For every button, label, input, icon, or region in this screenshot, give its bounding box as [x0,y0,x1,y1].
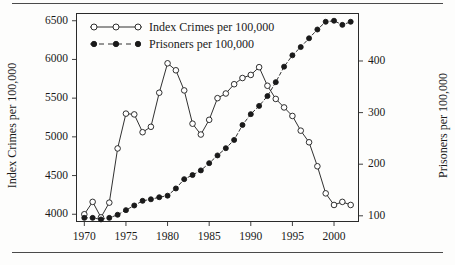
data-point [123,208,128,213]
y-tick-label-left: 4500 [24,170,68,182]
data-point [290,53,295,58]
data-point [240,75,246,81]
data-point [315,27,320,32]
data-point [157,195,162,200]
data-point [148,197,153,202]
data-point [215,95,221,101]
data-point [265,83,271,89]
data-point [182,177,187,182]
data-point [165,193,170,198]
data-point [198,168,203,173]
data-point [107,215,112,220]
data-point [207,161,212,166]
legend-label-index-crimes: Index Crimes per 100,000 [149,21,274,33]
data-point [140,129,146,135]
data-point [90,215,95,220]
data-point [348,19,353,24]
data-point [256,64,262,70]
legend-marker-open-circle [88,20,144,34]
data-point [257,103,262,108]
y-tick-label-left: 5000 [24,131,68,143]
data-point [248,72,254,78]
data-point [173,67,179,73]
data-point [156,90,162,96]
y-tick-label-left: 4000 [24,208,68,220]
y-tick-label-left: 6000 [24,53,68,65]
data-point [307,36,312,41]
data-point [323,191,329,197]
data-point [90,199,96,205]
data-point [181,88,187,94]
data-point [240,122,245,127]
y-tick-label-right: 100 [368,210,402,222]
data-point [115,146,121,152]
data-point [106,200,112,206]
data-point [223,146,228,151]
y-tick-label-left: 6500 [24,15,68,27]
data-point [173,186,178,191]
data-point [331,202,337,208]
data-point [98,217,103,222]
data-point [140,198,145,203]
series-index-crimes [82,61,354,221]
y-tick-label-right: 400 [368,55,402,67]
data-point [332,18,337,23]
legend-label-prisoners: Prisoners per 100,000 [149,38,254,50]
data-point [190,121,196,127]
data-point [340,199,346,205]
data-point [132,203,137,208]
data-point [131,112,137,118]
data-point [298,45,303,50]
data-point [123,111,129,117]
y-tick-label-right: 300 [368,107,402,119]
data-point [298,128,304,134]
data-point [265,94,270,99]
chart-legend: Index Crimes per 100,000 Prisoners per 1… [88,18,274,52]
data-point [198,132,204,138]
data-point [215,153,220,158]
x-tick-label: 2000 [310,231,358,243]
data-point [273,80,278,85]
figure-container: Index Crimes per 100,000 Prisoners per 1… [0,0,455,265]
y-tick-label-left: 5500 [24,92,68,104]
data-point [115,212,120,217]
data-point [306,139,312,145]
data-point [223,91,229,97]
data-point [281,105,287,111]
legend-marker-filled-circle [88,37,144,51]
data-point [165,61,171,67]
data-point [206,117,212,123]
data-point [282,64,287,69]
data-point [148,124,154,130]
data-point [82,215,87,220]
data-point [323,19,328,24]
legend-item-index-crimes: Index Crimes per 100,000 [88,18,274,35]
data-point [273,96,279,102]
data-point [340,22,345,27]
data-point [190,173,195,178]
y-tick-label-right: 200 [368,158,402,170]
legend-item-prisoners: Prisoners per 100,000 [88,35,274,52]
data-point [290,113,296,119]
data-point [348,202,354,208]
y-axis-label-right: Prisoners per 100,000 [436,51,451,201]
data-point [315,163,321,169]
y-axis-label-left: Index Crimes per 100,000 [5,51,20,201]
data-point [248,112,253,117]
data-point [231,81,237,87]
data-point [232,137,237,142]
